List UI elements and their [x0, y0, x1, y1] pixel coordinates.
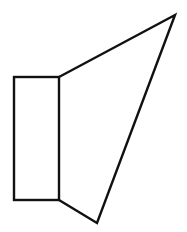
speaker-diagram — [0, 0, 187, 232]
speaker-icon — [0, 0, 187, 232]
speaker-cone — [59, 15, 175, 223]
speaker-box — [14, 77, 59, 200]
